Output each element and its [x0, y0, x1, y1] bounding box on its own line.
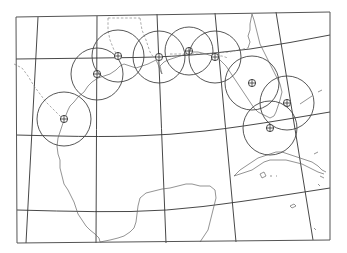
graticule — [16, 12, 330, 243]
coverage-map — [0, 0, 347, 253]
radar-site-icon — [60, 115, 67, 122]
coverage-sites — [37, 27, 314, 155]
coverage-site — [243, 101, 297, 155]
coastline-isle-of-youth — [260, 172, 277, 178]
parallel-line — [17, 188, 330, 212]
coverage-site — [260, 76, 314, 130]
coverage-site — [92, 30, 144, 82]
border-state-lines — [108, 18, 248, 58]
radar-site-icon — [266, 124, 273, 131]
radar-site-icon — [114, 52, 121, 59]
radar-site-icon — [155, 53, 162, 60]
meridian-line — [96, 16, 97, 243]
coastline-west-gulf — [57, 82, 100, 242]
meridian-line — [157, 14, 166, 243]
coverage-site — [37, 92, 91, 146]
radar-site-icon — [211, 53, 218, 60]
map-container — [0, 0, 347, 253]
map-frame — [16, 12, 330, 243]
coverage-site — [189, 31, 241, 83]
meridian-line — [26, 17, 38, 243]
coverage-site — [225, 56, 279, 110]
meridian-line — [276, 12, 313, 240]
coastline-yucatan — [100, 184, 216, 242]
coastline-atlantic — [248, 14, 252, 48]
coastline-florida — [198, 14, 282, 118]
coastline-louisiana — [92, 52, 198, 82]
coverage-site — [165, 27, 213, 75]
radar-site-icon — [248, 79, 255, 86]
coastline-cuba — [234, 152, 326, 176]
border-us-mexico — [14, 64, 62, 118]
